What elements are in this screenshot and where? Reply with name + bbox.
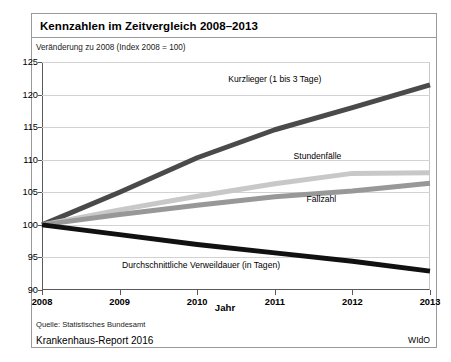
chart-subtitle: Veränderung zu 2008 (Index 2008 = 100) <box>36 43 186 52</box>
y-axis-tick-mark <box>38 95 42 96</box>
gridline <box>42 225 430 226</box>
x-axis-tick-label: 2011 <box>265 297 285 307</box>
gridline <box>42 127 430 128</box>
y-axis-tick-mark <box>38 257 42 258</box>
series-annotation-label: Durchschnittliche Verweildauer (in Tagen… <box>122 260 280 270</box>
report-name: Krankenhaus-Report 2016 <box>36 335 153 346</box>
y-axis-tick-label: 100 <box>4 220 38 230</box>
gridline <box>42 192 430 193</box>
y-axis-tick-mark <box>38 62 42 63</box>
source-note: Quelle: Statistisches Bundesamt <box>36 320 145 329</box>
series-annotation-label: Stundenfälle <box>294 151 342 161</box>
series-annotation-label: Kurzlieger (1 bis 3 Tage) <box>228 74 321 84</box>
x-axis-tick-mark <box>430 290 431 295</box>
chart-figure: Kennzahlen im Zeitvergleich 2008–2013 Ve… <box>0 0 451 362</box>
plot-area <box>42 62 430 290</box>
x-axis-tick-label: 2012 <box>342 297 363 307</box>
page-title: Kennzahlen im Zeitvergleich 2008–2013 <box>32 20 258 32</box>
series-annotation-label: Fallzahl <box>307 194 337 204</box>
gridline <box>42 160 430 161</box>
y-axis-tick-label: 110 <box>4 155 38 165</box>
x-axis-tick-mark <box>352 290 353 295</box>
y-axis-tick-label: 115 <box>4 122 38 132</box>
chart-title-bar: Kennzahlen im Zeitvergleich 2008–2013 <box>31 13 437 37</box>
y-axis-tick-label: 90 <box>4 285 38 295</box>
y-axis-tick-label: 95 <box>4 252 38 262</box>
y-axis-tick-mark <box>38 160 42 161</box>
x-axis-tick-label: 2009 <box>109 297 130 307</box>
x-axis-tick-mark <box>120 290 121 295</box>
y-axis-tick-label: 125 <box>4 57 38 67</box>
y-axis-tick-label: 105 <box>4 187 38 197</box>
x-axis-title: Jahr <box>215 302 235 313</box>
x-axis-tick-label: 2013 <box>420 297 441 307</box>
footer-bar: Krankenhaus-Report 2016 WIdO <box>31 332 437 348</box>
y-axis-tick-label: 120 <box>4 90 38 100</box>
y-axis-tick-mark <box>38 192 42 193</box>
publisher-name: WIdO <box>408 335 430 345</box>
gridline <box>42 62 430 63</box>
x-axis-tick-mark <box>275 290 276 295</box>
x-axis-tick-label: 2008 <box>32 297 53 307</box>
x-axis-tick-mark <box>42 290 43 295</box>
x-axis-tick-label: 2010 <box>187 297 208 307</box>
gridline <box>42 95 430 96</box>
y-axis-tick-mark <box>38 225 42 226</box>
gridline <box>42 257 430 258</box>
x-axis-tick-mark <box>197 290 198 295</box>
y-axis-tick-mark <box>38 127 42 128</box>
